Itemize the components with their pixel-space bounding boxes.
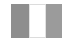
left-pane[interactable]: Left Pane <box>11 4 29 38</box>
layout-frame: Left Pane Center Pane Right Pane <box>11 4 62 38</box>
left-pane-label: Left Pane <box>11 4 12 5</box>
right-pane-label: Right Pane <box>46 4 47 5</box>
right-pane[interactable]: Right Pane <box>46 4 62 38</box>
center-pane-label: Center Pane <box>30 5 31 6</box>
app-title: Three Pane Layout <box>0 0 1 1</box>
center-pane[interactable]: Center Pane <box>29 4 46 38</box>
app-thumbnail: Three Pane Layout Left Pane Center Pane … <box>0 0 68 42</box>
